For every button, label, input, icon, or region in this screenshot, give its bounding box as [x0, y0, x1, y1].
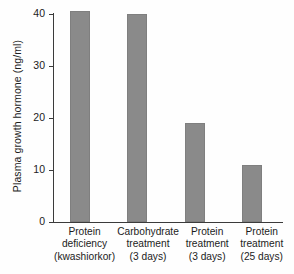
bar — [127, 14, 147, 222]
x-axis-label: Proteindeficiency(kwashiorkor) — [53, 226, 116, 274]
y-tick-label: 30 — [23, 59, 45, 71]
bar-chart-figure: Plasma growth hormone (ng/ml) 010203040 … — [0, 0, 294, 274]
x-axis-label: Carbohydratetreatment(3 days) — [116, 226, 180, 274]
y-tick-mark — [49, 118, 53, 119]
y-tick-mark — [49, 14, 53, 15]
y-tick-label: 40 — [23, 7, 45, 19]
x-axis-label-line: Protein — [235, 226, 288, 238]
x-axis-label-line: Protein — [181, 226, 234, 238]
x-axis-line — [53, 222, 283, 224]
x-axis-label-line: (kwashiorkor) — [54, 251, 115, 263]
x-axis-label-line: treatment — [181, 238, 234, 250]
y-tick-label: 10 — [23, 163, 45, 175]
bar — [185, 123, 205, 222]
y-tick-mark — [49, 66, 53, 67]
y-tick-label: 0 — [23, 215, 45, 227]
x-axis-label-line: Protein — [54, 226, 115, 238]
x-axis-label-line: (25 days) — [235, 251, 288, 263]
x-axis-label: Proteintreatment(3 days) — [180, 226, 235, 274]
y-tick-label: 20 — [23, 111, 45, 123]
x-axis-label-line: deficiency — [54, 238, 115, 250]
x-axis-label-line: treatment — [235, 238, 288, 250]
y-tick-mark — [49, 222, 53, 223]
x-axis-label-line: (3 days) — [181, 251, 234, 263]
bar — [70, 11, 90, 222]
y-axis-line — [53, 13, 54, 223]
y-tick-mark — [49, 170, 53, 171]
bar — [242, 165, 262, 222]
x-axis-label: Proteintreatment(25 days) — [234, 226, 289, 274]
x-axis-category-labels: Proteindeficiency(kwashiorkor)Carbohydra… — [53, 226, 289, 274]
x-axis-label-line: Carbohydrate — [117, 226, 179, 238]
x-axis-label-line: treatment — [117, 238, 179, 250]
x-axis-label-line: (3 days) — [117, 251, 179, 263]
